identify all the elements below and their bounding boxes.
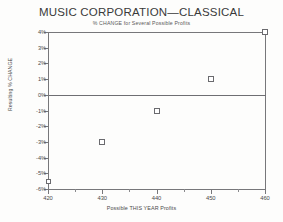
y-axis-title: Resulting % CHANGE <box>7 58 13 111</box>
right-spine <box>265 32 266 190</box>
y-tick-label: -2% <box>36 123 46 129</box>
y-tick-label: 3% <box>38 45 46 51</box>
y-tick-label: -5% <box>36 170 46 176</box>
x-tick-mark <box>265 189 266 194</box>
y-tick-label: 1% <box>38 76 46 82</box>
x-minor-tick-mark <box>238 189 239 192</box>
y-tick-label: 4% <box>38 29 46 35</box>
y-tick-label: -1% <box>36 108 46 114</box>
y-tick-label: 0% <box>38 92 46 98</box>
plot-area: 4%3%2%1%0%-1%-2%-3%-4%-5%-6% 42043044045… <box>48 32 266 190</box>
y-tick-label: -4% <box>36 155 46 161</box>
chart-subtitle: % CHANGE for Several Possible Profits <box>0 20 283 26</box>
chart-title: MUSIC CORPORATION—CLASSICAL <box>0 6 283 18</box>
x-tick-mark <box>211 189 212 194</box>
x-minor-tick-mark <box>184 189 185 192</box>
x-axis-title: Possible THIS YEAR Profits <box>0 205 283 211</box>
zero-reference-line <box>48 95 266 96</box>
x-tick-label: 430 <box>97 195 107 201</box>
x-minor-tick-mark <box>129 189 130 192</box>
x-tick-label: 420 <box>43 195 53 201</box>
x-tick-label: 450 <box>206 195 216 201</box>
x-minor-tick-mark <box>75 189 76 192</box>
top-spine <box>48 32 266 33</box>
y-tick-label: 2% <box>38 60 46 66</box>
x-tick-mark <box>48 189 49 194</box>
data-point-marker <box>154 108 160 114</box>
data-point-marker <box>262 29 268 35</box>
x-tick-mark <box>102 189 103 194</box>
y-tick-label: -6% <box>36 186 46 192</box>
y-tick-label: -3% <box>36 139 46 145</box>
x-tick-label: 440 <box>152 195 162 201</box>
x-tick-label: 460 <box>260 195 270 201</box>
x-tick-mark <box>157 189 158 194</box>
chart-page: MUSIC CORPORATION—CLASSICAL % CHANGE for… <box>0 0 283 222</box>
data-point-marker <box>208 76 214 82</box>
data-point-marker <box>99 139 105 145</box>
axis-point-marker <box>46 179 51 184</box>
